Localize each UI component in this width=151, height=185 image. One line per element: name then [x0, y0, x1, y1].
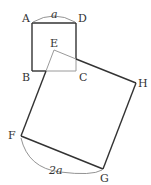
label-c-vertex: C — [79, 71, 87, 84]
side-gh — [103, 83, 136, 169]
square-efgh — [21, 50, 136, 169]
label-side-2a: 2a — [48, 164, 63, 177]
label-e-vertex: E — [50, 37, 58, 50]
label-side-a: a — [51, 8, 58, 21]
geometry-diagram: A D B C E F G H a 2a — [0, 0, 151, 185]
label-b-vertex: B — [22, 71, 30, 84]
label-a-vertex: A — [21, 12, 31, 25]
side-ef-inner — [46, 50, 54, 71]
label-f-vertex: F — [8, 129, 16, 142]
side-eh-inner — [54, 50, 76, 59]
label-d-vertex: D — [78, 12, 87, 25]
label-g-vertex: G — [100, 172, 109, 185]
label-h-vertex: H — [138, 77, 148, 90]
